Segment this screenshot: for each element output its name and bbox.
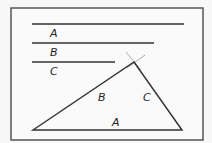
triangle-side-c-label: C bbox=[143, 91, 151, 104]
segment-c-label: C bbox=[50, 65, 58, 78]
triangle-side-a-label: A bbox=[111, 116, 120, 129]
triangle-side-b-label: B bbox=[98, 91, 106, 104]
triangle-construction-diagram: A B C A B C bbox=[0, 0, 212, 143]
segment-b-label: B bbox=[50, 46, 58, 59]
segment-a-label: A bbox=[49, 27, 58, 40]
